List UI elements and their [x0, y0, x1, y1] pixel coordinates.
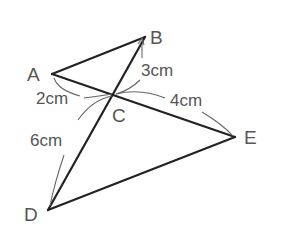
segment-ae — [52, 74, 235, 137]
segment-de — [48, 137, 235, 210]
label-point-d: D — [24, 204, 38, 225]
geometry-diagram: A B C D E 3cm 2cm 4cm 6cm — [0, 0, 281, 238]
label-length-cd: 6cm — [30, 131, 62, 150]
label-point-b: B — [150, 27, 163, 48]
label-point-e: E — [244, 127, 257, 148]
segment-ab — [52, 37, 145, 74]
label-length-ac: 2cm — [36, 89, 68, 108]
label-point-a: A — [27, 64, 40, 85]
segment-bd — [48, 37, 145, 210]
label-length-ce: 4cm — [170, 91, 202, 110]
label-point-c: C — [112, 105, 126, 126]
label-length-bc: 3cm — [141, 61, 173, 80]
